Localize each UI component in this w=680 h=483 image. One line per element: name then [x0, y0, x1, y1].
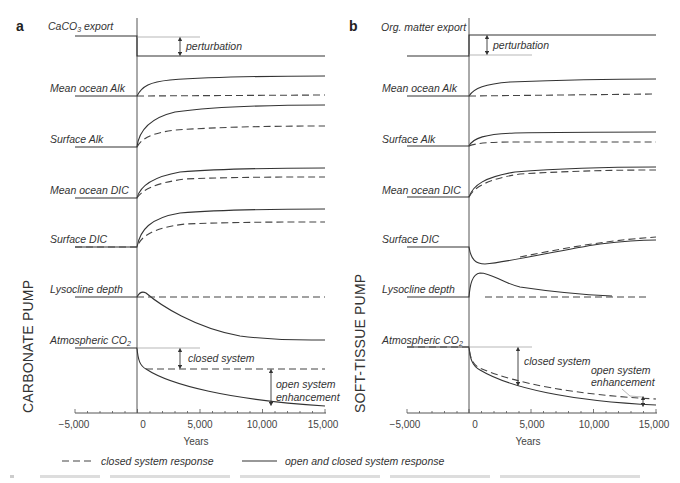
x-axis-a: −5,000 0 5,000 10,000 15,000 Years — [59, 409, 339, 447]
caption-text-fragment — [10, 472, 670, 480]
label-atmospheric-co2: Atmospheric CO2 — [381, 334, 463, 347]
label-lysocline-depth: Lysocline depth — [382, 283, 455, 295]
tick-label: 10,000 — [579, 419, 610, 430]
label-surface-dic: Surface DIC — [50, 233, 108, 245]
tick-label: 10,000 — [247, 419, 278, 430]
tick-label: 0 — [140, 419, 146, 430]
tick-label: 5,000 — [519, 419, 544, 430]
label-mean-ocean-dic: Mean ocean DIC — [50, 184, 129, 196]
annotation-perturbation: perturbation — [185, 40, 242, 52]
series-caco3-export: perturbation — [75, 36, 325, 56]
series-surface-dic — [75, 209, 325, 247]
label-org-matter-export: Org. matter export — [381, 21, 467, 33]
tick-label: 0 — [472, 419, 478, 430]
series-atmospheric-co2: closed system open system enhancement — [75, 348, 341, 406]
series-org-matter-export: perturbation — [407, 35, 656, 56]
legend-solid-label: open and closed system response — [285, 455, 445, 467]
series-surface-alk — [75, 105, 325, 147]
caption-cutoff — [10, 472, 670, 480]
tick-label: 15,000 — [308, 419, 339, 430]
label-lysocline-depth: Lysocline depth — [50, 283, 123, 295]
label-surface-alk: Surface Alk — [382, 133, 436, 145]
label-mean-ocean-alk: Mean ocean Alk — [50, 82, 126, 94]
x-axis-label: Years — [183, 436, 208, 447]
panel-b: b SOFT-TISSUE PUMP Org. matter export Me… — [349, 18, 670, 447]
panel-letter-a: a — [16, 18, 24, 34]
tick-label: −5,000 — [59, 419, 90, 430]
x-axis-b: −5,000 0 5,000 10,000 15,000 Years — [390, 409, 670, 447]
label-mean-ocean-dic: Mean ocean DIC — [382, 184, 461, 196]
series-surface-dic — [407, 237, 656, 264]
legend-dashed-label: closed system response — [101, 455, 214, 467]
tick-label: 15,000 — [639, 419, 670, 430]
carbonate-pump-title: CARBONATE PUMP — [20, 280, 36, 413]
label-atmospheric-co2: Atmospheric CO2 — [49, 334, 131, 347]
annotation-enhancement: enhancement — [591, 376, 656, 388]
tick-label: 5,000 — [187, 419, 212, 430]
panel-letter-b: b — [349, 18, 358, 34]
legend: closed system response open and closed s… — [62, 455, 445, 467]
annotation-enhancement: enhancement — [276, 391, 341, 403]
annotation-open-system: open system — [276, 378, 336, 390]
series-atmospheric-co2: closed system open system enhancement — [407, 347, 656, 405]
series-lysocline-depth — [75, 292, 325, 340]
annotation-closed-system: closed system — [188, 352, 255, 364]
label-caco3-export: CaCO3 export — [48, 20, 114, 33]
label-mean-ocean-alk: Mean ocean Alk — [382, 82, 458, 94]
series-surface-alk — [407, 132, 656, 146]
annotation-closed-system: closed system — [524, 355, 591, 367]
tick-label: −5,000 — [390, 419, 421, 430]
annotation-open-system: open system — [591, 364, 651, 376]
annotation-perturbation: perturbation — [492, 39, 549, 51]
panel-a: a CARBONATE PUMP CaCO3 export Mean ocean… — [16, 18, 341, 447]
figure: a CARBONATE PUMP CaCO3 export Mean ocean… — [0, 0, 680, 483]
label-surface-alk: Surface Alk — [50, 133, 104, 145]
soft-tissue-pump-title: SOFT-TISSUE PUMP — [352, 274, 368, 413]
x-axis-label: Years — [515, 436, 540, 447]
label-surface-dic: Surface DIC — [382, 233, 440, 245]
